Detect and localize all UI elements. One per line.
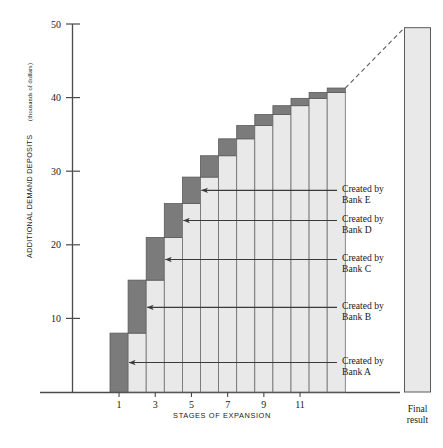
annotation-label-line2: Bank D	[342, 224, 372, 235]
x-tick-label: 1	[117, 399, 122, 410]
created-segment	[309, 92, 327, 98]
annotation-label-line1: Created by	[342, 183, 384, 194]
x-tick-label: 9	[261, 399, 266, 410]
y-tick-label: 50	[51, 19, 61, 30]
final-result-group: Final result	[405, 28, 431, 425]
final-result-label-line1: Final	[408, 403, 428, 414]
stage-bar	[110, 333, 128, 392]
y-axis-ticks: 1020304050	[51, 19, 80, 324]
chart-canvas: 1020304050 ADDITIONAL DEMAND DEPOSITS (t…	[0, 0, 443, 448]
stage-bar	[327, 88, 345, 392]
final-result-label-line2: result	[407, 414, 429, 425]
y-tick-label: 30	[51, 166, 61, 177]
created-segment	[273, 106, 291, 115]
y-tick-label: 40	[51, 92, 61, 103]
annotation-label-line1: Created by	[342, 300, 384, 311]
carried-segment	[273, 115, 291, 392]
stage-bar	[255, 115, 273, 392]
carried-segment	[309, 98, 327, 392]
carried-segment	[146, 280, 164, 392]
created-segment	[237, 126, 255, 139]
created-segment	[255, 115, 273, 126]
carried-segment	[164, 237, 182, 392]
y-axis-title: ADDITIONAL DEMAND DEPOSITS	[25, 135, 34, 258]
connector-dashed-line	[345, 28, 404, 88]
annotation-label-line2: Bank C	[342, 263, 371, 274]
annotation-label-line2: Bank B	[342, 311, 371, 322]
carried-segment	[182, 204, 200, 392]
carried-segment	[255, 126, 273, 392]
created-segment	[291, 98, 309, 105]
created-segment	[128, 280, 146, 333]
y-tick-label: 20	[51, 239, 61, 250]
annotation-label-line1: Created by	[342, 252, 384, 263]
annotation-label-line1: Created by	[342, 355, 384, 366]
created-segment	[110, 333, 128, 392]
y-axis-title-group: ADDITIONAL DEMAND DEPOSITS (thousands of…	[25, 63, 34, 258]
created-segment	[164, 204, 182, 238]
created-segment	[327, 88, 345, 92]
x-axis-ticks: 1357911	[117, 392, 305, 410]
deposit-expansion-chart: 1020304050 ADDITIONAL DEMAND DEPOSITS (t…	[0, 0, 443, 448]
stage-bar	[201, 156, 219, 392]
carried-segment	[327, 92, 345, 392]
stage-bar	[164, 204, 182, 392]
x-tick-label: 7	[225, 399, 230, 410]
x-tick-label: 3	[153, 399, 158, 410]
annotation-label-line1: Created by	[342, 213, 384, 224]
stage-bar	[219, 139, 237, 392]
annotation-label-line2: Bank A	[342, 366, 371, 377]
carried-segment	[201, 177, 219, 392]
stage-bar	[237, 126, 255, 392]
annotation-label-line2: Bank E	[342, 194, 371, 205]
stage-bar	[128, 280, 146, 392]
y-axis-units: (thousands of dollars)	[26, 63, 34, 121]
x-axis-title: STAGES OF EXPANSION	[173, 411, 271, 420]
stage-bar	[291, 98, 309, 392]
carried-segment	[237, 139, 255, 392]
y-tick-label: 10	[51, 313, 61, 324]
created-segment	[219, 139, 237, 156]
stage-bar	[146, 237, 164, 392]
created-segment	[182, 177, 200, 203]
carried-segment	[219, 156, 237, 392]
bars-group	[110, 88, 345, 392]
x-tick-label: 5	[189, 399, 194, 410]
created-segment	[201, 156, 219, 177]
stage-bar	[273, 106, 291, 392]
final-result-bar	[405, 28, 431, 392]
created-segment	[146, 237, 164, 280]
stage-bar	[309, 92, 327, 392]
x-tick-label: 11	[295, 399, 305, 410]
carried-segment	[291, 106, 309, 392]
stage-bar	[182, 177, 200, 392]
